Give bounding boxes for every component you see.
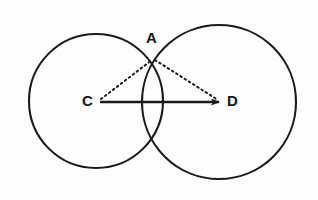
point-label-a: A xyxy=(146,30,157,45)
segment-a-to-d-dotted xyxy=(155,60,218,100)
geometry-canvas xyxy=(0,0,318,200)
geometry-figure: A C D xyxy=(0,0,318,200)
point-label-d: D xyxy=(227,93,238,108)
point-label-c: C xyxy=(82,93,93,108)
